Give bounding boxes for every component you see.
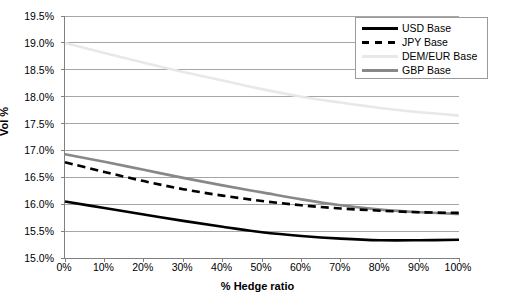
x-axis-title: % Hedge ratio bbox=[0, 280, 515, 292]
y-tick-label: 18.0% bbox=[8, 92, 54, 102]
x-tick-label: 70% bbox=[318, 262, 362, 273]
chart-legend: USD BaseJPY BaseDEM/EUR BaseGBP Base bbox=[355, 17, 488, 79]
x-tick-label: 30% bbox=[160, 262, 204, 273]
legend-item[interactable]: DEM/EUR Base bbox=[360, 49, 483, 63]
solid-light-gray-line-icon bbox=[360, 50, 400, 62]
series-line-gbp-base bbox=[65, 154, 459, 214]
x-tick-label: 40% bbox=[200, 262, 244, 273]
x-tick-label: 50% bbox=[239, 262, 283, 273]
legend-item-label: DEM/EUR Base bbox=[402, 50, 477, 62]
line-chart: Vol % 15.0%15.5%16.0%16.5%17.0%17.5%18.0… bbox=[0, 0, 515, 304]
y-tick-label: 19.5% bbox=[8, 11, 54, 21]
x-tick-label: 10% bbox=[81, 262, 125, 273]
x-tick-label: 80% bbox=[357, 262, 401, 273]
y-tick-label: 17.5% bbox=[8, 119, 54, 129]
x-tick-label: 90% bbox=[397, 262, 441, 273]
solid-black-line-icon bbox=[360, 22, 400, 34]
legend-item-label: USD Base bbox=[402, 22, 451, 34]
y-tick-label: 19.0% bbox=[8, 38, 54, 48]
series-line-usd-base bbox=[65, 202, 459, 241]
solid-gray-line-icon bbox=[360, 64, 400, 76]
legend-item[interactable]: GBP Base bbox=[360, 63, 483, 77]
x-tick-label: 20% bbox=[121, 262, 165, 273]
y-tick-label: 18.5% bbox=[8, 65, 54, 75]
legend-item-label: GBP Base bbox=[402, 64, 451, 76]
y-tick-label: 16.0% bbox=[8, 199, 54, 209]
y-tick-label: 15.5% bbox=[8, 226, 54, 236]
x-tick-label: 100% bbox=[436, 262, 480, 273]
x-tick-label: 0% bbox=[42, 262, 86, 273]
x-tick-label: 60% bbox=[278, 262, 322, 273]
y-tick-label: 17.0% bbox=[8, 145, 54, 155]
dashed-black-line-icon bbox=[360, 36, 400, 48]
legend-item[interactable]: JPY Base bbox=[360, 35, 483, 49]
y-tick-label: 16.5% bbox=[8, 172, 54, 182]
legend-item[interactable]: USD Base bbox=[360, 21, 483, 35]
legend-item-label: JPY Base bbox=[402, 36, 448, 48]
series-line-jpy-base bbox=[65, 162, 459, 213]
